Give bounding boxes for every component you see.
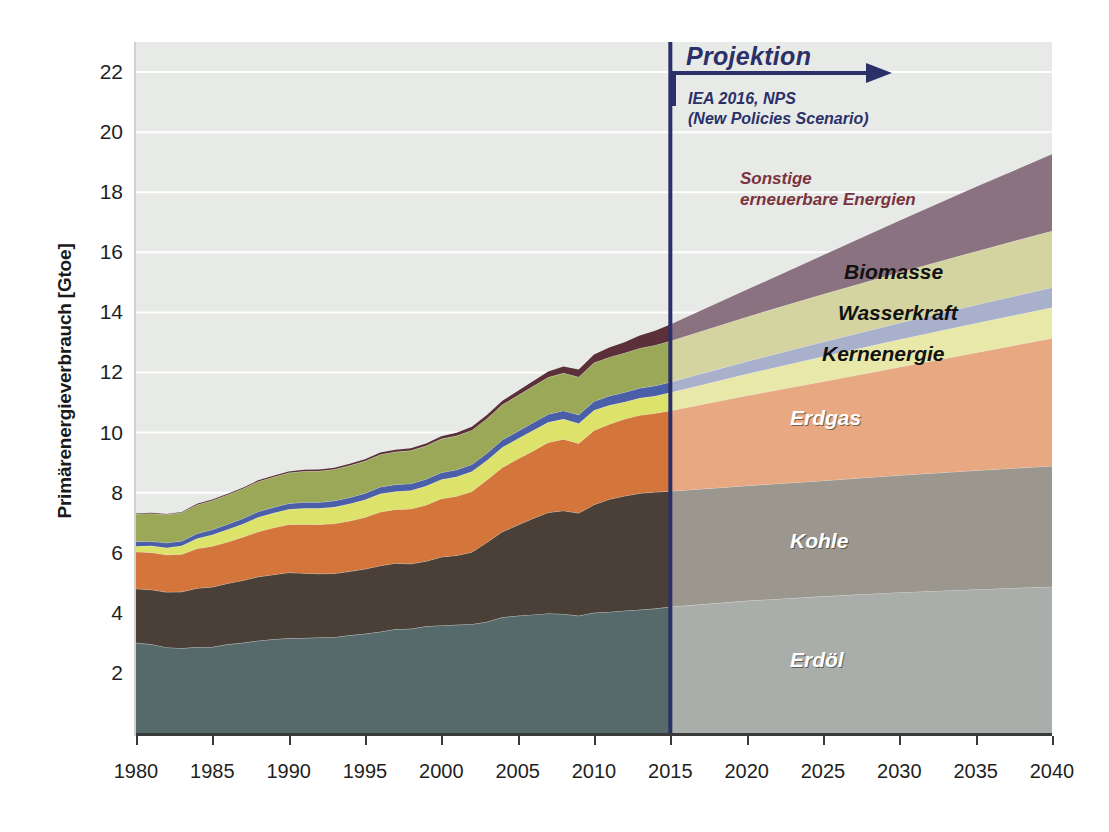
x-axis-tickmark-1985 (212, 736, 214, 745)
series-label-sonstige-erneuerbare-energien: Sonstige erneuerbare Energien (740, 168, 916, 210)
y-axis-tick-16: 16 (83, 240, 123, 264)
x-axis-tickmark-1995 (365, 736, 367, 745)
series-label-kohle: Kohle (790, 528, 848, 554)
x-axis-tickmark-2020 (747, 736, 749, 745)
x-axis-tickmark-2005 (518, 736, 520, 745)
x-axis-tickmark-2025 (823, 736, 825, 745)
y-axis-tick-4: 4 (83, 601, 123, 625)
x-axis-tickmark-2015 (670, 736, 672, 745)
y-axis-tick-labels: 246810121416182022 (75, 0, 123, 832)
y-axis-tick-12: 12 (83, 360, 123, 384)
y-axis-tick-14: 14 (83, 300, 123, 324)
plot-area (136, 42, 1052, 733)
series-label-kernenergie: Kernenergie (822, 341, 945, 367)
chart-canvas: Primärenergieverbrauch [Gtoe] 2468101214… (0, 0, 1109, 832)
x-axis-tick-2040: 2040 (1007, 760, 1097, 783)
x-axis-tickmark-2000 (441, 736, 443, 745)
y-axis-tick-18: 18 (83, 180, 123, 204)
x-axis-tickmark-1990 (289, 736, 291, 745)
x-axis-tickmark-2040 (1052, 736, 1054, 745)
y-axis-title: Primärenergieverbrauch [Gtoe] (54, 61, 76, 701)
y-axis-tick-8: 8 (83, 481, 123, 505)
y-axis-tick-22: 22 (83, 60, 123, 84)
x-axis-tickmark-2035 (976, 736, 978, 745)
y-axis-tick-10: 10 (83, 421, 123, 445)
series-label-biomasse: Biomasse (844, 259, 943, 285)
stacked-area-svg (136, 42, 1052, 733)
y-axis-tick-6: 6 (83, 541, 123, 565)
x-axis-tickmark-1980 (136, 736, 138, 745)
series-label-erdoel: Erdöl (790, 647, 844, 673)
projection-title: Projektion (686, 42, 811, 71)
y-axis-tick-20: 20 (83, 120, 123, 144)
y-axis-tick-2: 2 (83, 661, 123, 685)
x-axis-tickmark-2010 (594, 736, 596, 745)
projection-source-note: IEA 2016, NPS (New Policies Scenario) (688, 89, 869, 130)
y-axis-line (134, 42, 136, 736)
series-label-erdgas: Erdgas (790, 405, 861, 431)
series-label-wasserkraft: Wasserkraft (838, 300, 958, 326)
x-axis-tickmark-2030 (899, 736, 901, 745)
